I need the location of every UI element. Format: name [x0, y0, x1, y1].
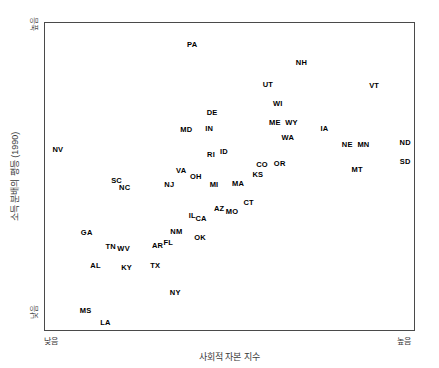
x-axis-title: 사회적 자본 지수	[44, 350, 415, 363]
data-point-md: MD	[180, 127, 192, 135]
data-point-in: IN	[205, 125, 213, 133]
data-point-ri: RI	[207, 151, 215, 159]
data-point-nd: ND	[400, 140, 411, 148]
data-point-vt: VT	[369, 82, 379, 90]
data-point-tx: TX	[150, 263, 160, 271]
data-point-tn: TN	[105, 244, 115, 252]
data-point-oh: OH	[190, 173, 202, 181]
data-point-ct: CT	[243, 199, 253, 207]
data-point-ma: MA	[232, 180, 244, 188]
data-point-nj: NJ	[164, 181, 174, 189]
data-point-wi: WI	[273, 101, 283, 109]
data-point-co: CO	[256, 161, 268, 169]
y-axis-tick-high: 높음	[28, 17, 39, 31]
data-point-nc: NC	[119, 184, 130, 192]
data-point-ms: MS	[80, 308, 92, 316]
data-point-wa: WA	[282, 134, 294, 142]
y-axis-title: 소득 분배의 평등 (1990)	[8, 22, 22, 331]
x-axis-tick-high: 높음	[397, 335, 411, 346]
data-point-ks: KS	[252, 171, 263, 179]
data-point-ny: NY	[170, 289, 181, 297]
data-points-layer: PANHVTUTWIDEMDINMEWYWAIANEMNNDSDNVRIIDCO…	[45, 23, 414, 330]
data-point-ne: NE	[342, 141, 353, 149]
data-point-ut: UT	[263, 81, 273, 89]
data-point-mt: MT	[352, 166, 363, 174]
data-point-sd: SD	[400, 158, 411, 166]
data-point-id: ID	[220, 148, 228, 156]
data-point-fl: FL	[163, 240, 173, 248]
data-point-ky: KY	[121, 265, 132, 273]
data-point-nm: NM	[170, 228, 182, 236]
data-point-pa: PA	[187, 41, 197, 49]
plot-area: PANHVTUTWIDEMDINMEWYWAIANEMNNDSDNVRIIDCO…	[44, 22, 415, 331]
scatter-chart-figure: 소득 분배의 평등 (1990) 높음 낮음 PANHVTUTWIDEMDINM…	[0, 0, 439, 368]
data-point-mn: MN	[357, 141, 369, 149]
data-point-de: DE	[207, 110, 218, 118]
y-axis-tick-low: 낮음	[28, 305, 39, 319]
data-point-va: VA	[176, 167, 186, 175]
data-point-wy: WY	[285, 120, 297, 128]
data-point-me: ME	[269, 120, 281, 128]
data-point-ca: CA	[195, 215, 206, 223]
data-point-or: OR	[274, 160, 286, 168]
x-axis-tick-low: 낮음	[44, 335, 58, 346]
data-point-ia: IA	[320, 125, 328, 133]
data-point-la: LA	[100, 319, 110, 327]
data-point-mi: MI	[210, 181, 219, 189]
data-point-wv: WV	[117, 245, 129, 253]
data-point-nh: NH	[296, 59, 307, 67]
data-point-ga: GA	[81, 229, 93, 237]
data-point-ok: OK	[194, 234, 206, 242]
data-point-al: AL	[90, 262, 100, 270]
data-point-mo: MO	[226, 208, 238, 216]
data-point-az: AZ	[214, 205, 224, 213]
data-point-ar: AR	[152, 243, 163, 251]
data-point-nv: NV	[52, 146, 63, 154]
